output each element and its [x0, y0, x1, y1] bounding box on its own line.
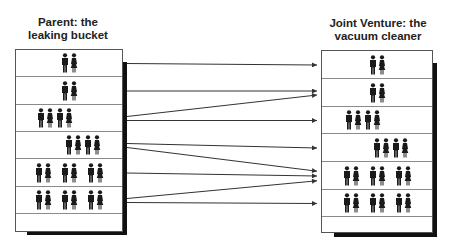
- arrow-row3-to-row2: [127, 95, 317, 117]
- arrow-row1-to-row1: [127, 64, 317, 66]
- arrow-row4-to-row4: [127, 144, 317, 149]
- arrows-layer: [0, 0, 452, 248]
- arrow-row5-to-row5: [127, 173, 317, 176]
- arrow-row4-to-row5: [127, 148, 317, 172]
- arrow-row6-to-row6: [127, 203, 317, 204]
- arrow-row6-to-row5: [127, 181, 317, 199]
